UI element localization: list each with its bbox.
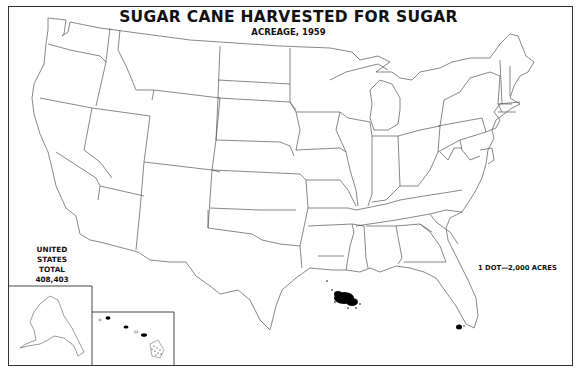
map-subtitle: ACREAGE, 1959 [0,27,577,37]
total-line2: TOTAL [22,265,82,275]
florida-dots [456,325,465,330]
map-title: SUGAR CANE HARVESTED FOR SUGAR [0,8,577,26]
us-outline [32,18,534,330]
louisiana-dots [326,280,361,309]
total-line1: UNITED STATES [22,245,82,265]
us-dot-map [0,0,577,373]
dot-legend: 1 DOT—2,000 ACRES [478,264,557,272]
alaska-outline [20,296,84,356]
hawaii-islands [106,316,148,337]
total-value: 408,403 [22,275,82,285]
us-total-label: UNITED STATES TOTAL 408,403 [22,245,82,285]
